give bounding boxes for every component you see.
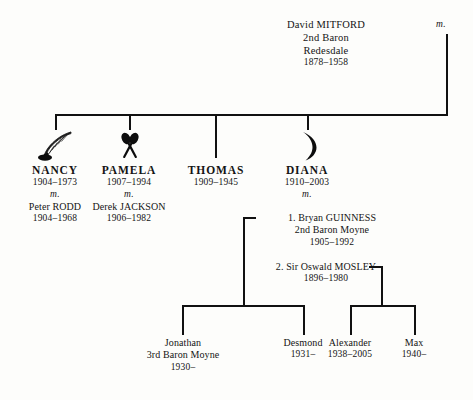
alexander-dates: 1938–2005 — [309, 349, 391, 361]
connector-drop-alexander — [350, 305, 352, 335]
guinness-name: 1. Bryan GUINNESS — [252, 212, 412, 224]
node-pamela: PAMELA 1907–1994 m. Derek JACKSON 1906–1… — [79, 163, 179, 225]
root-dates: 1878–1958 — [236, 57, 416, 69]
connector-root-vertical — [446, 34, 448, 115]
root-title-line1: 2nd Baron — [236, 31, 416, 44]
node-diana: DIANA 1910–2003 m. — [257, 163, 357, 201]
thomas-name: THOMAS — [166, 163, 266, 177]
alexander-name: Alexander — [309, 337, 391, 349]
diana-dates: 1910–2003 — [257, 177, 357, 189]
node-bryan-guinness: 1. Bryan GUINNESS 2nd Baron Moyne 1905–1… — [252, 212, 412, 249]
root-name: David MITFORD — [236, 18, 416, 31]
pamela-marriage-marker: m. — [79, 189, 179, 201]
jonathan-dates: 1930– — [132, 362, 234, 374]
jonathan-title: 3rd Baron Moyne — [132, 349, 234, 361]
guinness-dates: 1905–1992 — [252, 237, 412, 249]
crescent-moon-icon — [294, 130, 322, 166]
connector-drop-thomas — [215, 114, 217, 158]
connector-guinness-children-bar — [182, 305, 304, 307]
jonathan-name: Jonathan — [132, 337, 234, 349]
family-tree-diagram: David MITFORD 2nd Baron Redesdale 1878–1… — [0, 0, 473, 400]
thomas-dates: 1909–1945 — [166, 177, 266, 189]
crossed-spoons-icon — [114, 130, 146, 166]
connector-drop-max — [414, 305, 416, 335]
connector-drop-desmond — [303, 305, 305, 335]
node-david-mitford: David MITFORD 2nd Baron Redesdale 1878–1… — [236, 18, 416, 69]
pamela-name: PAMELA — [79, 163, 179, 177]
diana-name: DIANA — [257, 163, 357, 177]
pamela-spouse-dates: 1906–1982 — [79, 213, 179, 225]
node-thomas: THOMAS 1909–1945 — [166, 163, 266, 189]
connector-drop-diana — [307, 114, 309, 130]
node-max: Max 1940– — [384, 337, 444, 361]
guinness-title: 2nd Baron Moyne — [252, 224, 412, 236]
root-marriage-marker: m. — [436, 19, 458, 31]
node-alexander: Alexander 1938–2005 — [309, 337, 391, 361]
connector-drop-pamela — [129, 114, 131, 130]
connector-guinness-tick — [243, 217, 256, 219]
connector-drop-nancy — [55, 114, 57, 130]
pamela-spouse-name: Derek JACKSON — [79, 201, 179, 213]
connector-sibling-bar — [55, 114, 448, 116]
connector-guinness-spine — [243, 217, 245, 306]
diana-marriage-marker: m. — [257, 189, 357, 201]
connector-drop-jonathan — [182, 305, 184, 335]
pamela-dates: 1907–1994 — [79, 177, 179, 189]
max-dates: 1940– — [384, 349, 444, 361]
node-jonathan: Jonathan 3rd Baron Moyne 1930– — [132, 337, 234, 374]
root-title-line2: Redesdale — [236, 44, 416, 57]
max-name: Max — [384, 337, 444, 349]
connector-mosley-children-bar — [350, 305, 415, 307]
quill-pen-icon — [37, 129, 77, 165]
connector-mosley-spine — [381, 266, 383, 306]
